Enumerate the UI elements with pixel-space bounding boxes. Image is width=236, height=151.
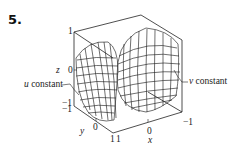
z-tick-1: 1	[68, 27, 73, 37]
y-tick-neg1: −1	[62, 105, 72, 115]
x-tick-neg1: −1	[183, 118, 193, 128]
z-axis-label: z	[56, 66, 60, 76]
y-axis-label: y	[80, 127, 84, 137]
y-tick-1: 1	[110, 135, 115, 145]
v-constant-text: constant	[196, 76, 228, 86]
v-variable: v	[189, 76, 193, 86]
left-lobe-wireframe	[76, 42, 118, 121]
x-tick-1: 1	[116, 135, 121, 145]
u-constant-label: u constant	[24, 80, 63, 90]
parametric-surface-figure: 5.	[0, 0, 236, 151]
x-axis-label: x	[148, 136, 152, 146]
y-tick-0: 0	[93, 123, 98, 133]
u-variable: u	[24, 79, 29, 89]
z-tick-0: 0	[68, 66, 73, 76]
u-constant-text: constant	[31, 79, 63, 89]
v-constant-label: v constant	[189, 77, 227, 87]
axis-ticks	[74, 70, 148, 122]
right-lobe-wireframe	[117, 28, 180, 112]
